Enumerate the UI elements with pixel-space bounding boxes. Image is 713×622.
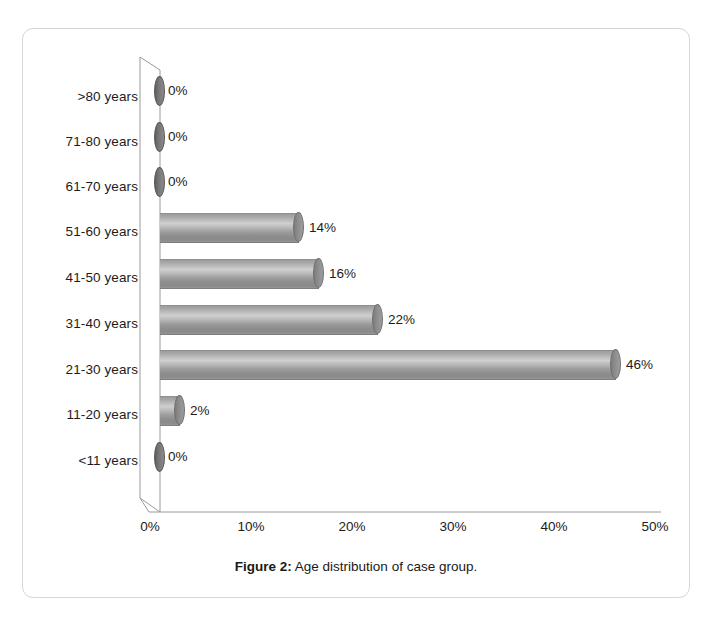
chart-plot-area: >80 years 71-80 years 61-70 years 51-60 … — [0, 0, 713, 622]
figure-caption-text: Age distribution of case group. — [292, 559, 477, 574]
bar-value-label: 0% — [168, 122, 188, 152]
bar-row: 14% — [160, 213, 299, 243]
x-tick-10: 10% — [216, 519, 286, 534]
x-tick-30: 30% — [418, 519, 488, 534]
bar-marker-zero — [154, 442, 165, 472]
figure-caption-label: Figure 2: — [235, 559, 292, 574]
bar-row: 2% — [160, 396, 180, 426]
bar-cylinder-cap — [293, 212, 304, 242]
bar-cylinder-cap — [372, 304, 383, 334]
bar-value-label: 0% — [168, 76, 188, 106]
bar-marker-zero — [154, 76, 165, 106]
bar-value-label: 46% — [626, 350, 653, 380]
bar-cylinder — [160, 305, 378, 335]
bar-row: 0% — [160, 442, 174, 472]
bar-cylinder-cap — [174, 395, 185, 425]
bar-row: 16% — [160, 259, 319, 289]
bar-cylinder-cap — [313, 258, 324, 288]
bar-value-label: 0% — [168, 442, 188, 472]
x-tick-0: 0% — [115, 519, 185, 534]
bar-value-label: 0% — [168, 167, 188, 197]
bar-cylinder — [160, 259, 319, 289]
bar-marker-zero — [154, 167, 165, 197]
bar-row: 0% — [160, 76, 174, 106]
figure-container: >80 years 71-80 years 61-70 years 51-60 … — [0, 0, 713, 622]
bar-cylinder — [160, 350, 616, 380]
bar-row: 0% — [160, 122, 174, 152]
bar-value-label: 22% — [388, 305, 415, 335]
bar-marker-zero — [154, 122, 165, 152]
bar-row: 22% — [160, 305, 378, 335]
x-tick-40: 40% — [519, 519, 589, 534]
bar-value-label: 16% — [329, 259, 356, 289]
bar-row: 46% — [160, 350, 616, 380]
bar-value-label: 2% — [190, 396, 210, 426]
bar-row: 0% — [160, 167, 174, 197]
x-axis-labels: 0% 10% 20% 30% 40% 50% — [0, 519, 713, 543]
figure-caption: Figure 2: Age distribution of case group… — [22, 559, 690, 574]
bar-cylinder-cap — [610, 349, 621, 379]
bar-cylinder — [160, 213, 299, 243]
bar-value-label: 14% — [309, 213, 336, 243]
x-tick-50: 50% — [620, 519, 690, 534]
x-tick-20: 20% — [317, 519, 387, 534]
